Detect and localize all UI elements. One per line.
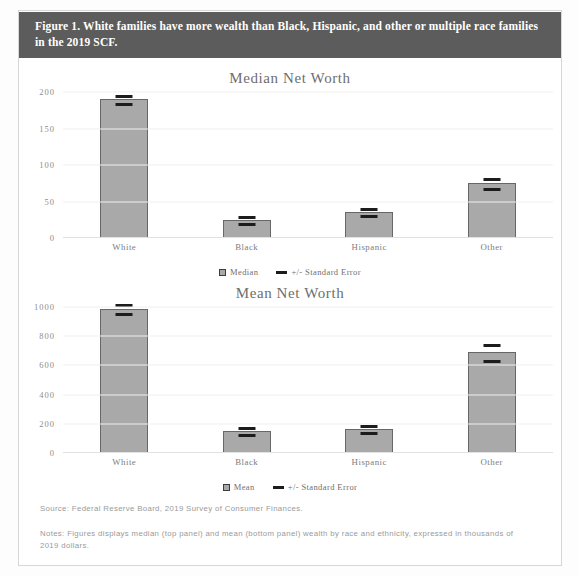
plot-area-mean: 02004006008001000 WhiteBlackHispanicOthe… (19, 307, 561, 453)
plot-mean (63, 307, 553, 453)
legend-item[interactable]: +/- Standard Error (276, 267, 361, 277)
gridline (63, 336, 553, 337)
bar-slot (308, 307, 431, 453)
chart-panel-median: Median Net Worth 050100150200 WhiteBlack… (19, 62, 561, 277)
bar-swatch-icon (219, 269, 226, 276)
chart-title-median: Median Net Worth (19, 68, 561, 88)
gridline (63, 307, 553, 308)
notes-text: Notes: Figures displays median (top pane… (40, 528, 520, 551)
y-axis-median: 050100150200 (19, 92, 61, 238)
y-axis-mean: 02004006008001000 (19, 307, 61, 453)
y-tick-label: 400 (39, 390, 55, 400)
x-axis-label: White (63, 242, 186, 258)
error-bar-lower-icon (116, 313, 133, 316)
error-bar-upper-icon (483, 178, 500, 181)
error-bar-upper-icon (361, 425, 378, 428)
legend-label: +/- Standard Error (291, 267, 361, 277)
chart-title-mean: Mean Net Worth (19, 283, 561, 303)
bar-slot (63, 307, 186, 453)
x-axis-label: Other (431, 242, 554, 258)
error-bar-icon (276, 271, 287, 274)
bar-black[interactable] (223, 431, 271, 453)
error-bar-lower-icon (238, 223, 255, 226)
source-text: Source: Federal Reserve Board, 2019 Surv… (40, 503, 520, 515)
y-tick-label: 200 (39, 87, 55, 97)
x-axis-label: White (63, 457, 186, 473)
bar-slot (431, 307, 554, 453)
bar-other[interactable] (468, 352, 516, 453)
error-bar-upper-icon (116, 95, 133, 98)
bar-black[interactable] (223, 220, 271, 238)
gridline (63, 165, 553, 166)
gridline (63, 201, 553, 202)
error-bar-lower-icon (483, 188, 500, 191)
bar-swatch-icon (223, 484, 230, 491)
x-axis-label: Hispanic (308, 242, 431, 258)
axis-baseline-median (63, 237, 553, 238)
y-tick-label: 0 (50, 448, 55, 458)
bar-white[interactable] (100, 309, 148, 453)
bar-other[interactable] (468, 183, 516, 238)
error-bar-icon (273, 486, 284, 489)
legend-label: Median (230, 267, 258, 277)
y-tick-label: 1000 (34, 302, 55, 312)
x-axis-label: Black (186, 457, 309, 473)
legend-item[interactable]: Mean (223, 482, 255, 492)
chart-panel-mean: Mean Net Worth 02004006008001000 WhiteBl… (19, 277, 561, 492)
error-bar-upper-icon (238, 427, 255, 430)
gridline (63, 365, 553, 366)
x-axis-label: Other (431, 457, 554, 473)
bar-white[interactable] (100, 99, 148, 238)
axis-baseline-mean (63, 452, 553, 453)
figure-notes: Notes: Figures displays median (top pane… (40, 528, 520, 551)
y-tick-label: 100 (39, 160, 55, 170)
bar-group-mean (63, 307, 553, 453)
figure-page: Figure 1. White families have more wealt… (0, 0, 578, 576)
legend-mean: Mean+/- Standard Error (19, 479, 561, 495)
bar-hispanic[interactable] (345, 212, 393, 238)
error-bar-upper-icon (483, 344, 500, 347)
legend-label: Mean (234, 482, 255, 492)
error-bar-upper-icon (238, 216, 255, 219)
y-tick-label: 600 (39, 360, 55, 370)
error-bar-upper-icon (361, 208, 378, 211)
bar-slot (186, 307, 309, 453)
error-bar-lower-icon (483, 360, 500, 363)
figure-header-band: Figure 1. White families have more wealt… (19, 12, 561, 58)
error-bar-lower-icon (116, 103, 133, 106)
y-tick-label: 0 (50, 233, 55, 243)
plot-median (63, 92, 553, 238)
plot-area-median: 050100150200 WhiteBlackHispanicOther Med… (19, 92, 561, 238)
y-tick-label: 150 (39, 124, 55, 134)
gridline (63, 423, 553, 424)
gridline (63, 92, 553, 93)
source-note: Source: Federal Reserve Board, 2019 Surv… (40, 503, 520, 515)
y-tick-label: 50 (45, 197, 56, 207)
x-axis-median: WhiteBlackHispanicOther (63, 242, 553, 258)
gridline (63, 394, 553, 395)
error-bar-lower-icon (361, 432, 378, 435)
y-tick-label: 200 (39, 419, 55, 429)
x-axis-mean: WhiteBlackHispanicOther (63, 457, 553, 473)
gridline (63, 128, 553, 129)
bar-hispanic[interactable] (345, 429, 393, 453)
x-axis-label: Hispanic (308, 457, 431, 473)
figure-title: Figure 1. White families have more wealt… (35, 19, 547, 50)
y-tick-label: 800 (39, 331, 55, 341)
legend-item[interactable]: +/- Standard Error (273, 482, 358, 492)
legend-label: +/- Standard Error (288, 482, 358, 492)
error-bar-lower-icon (238, 434, 255, 437)
error-bar-lower-icon (361, 215, 378, 218)
legend-item[interactable]: Median (219, 267, 258, 277)
x-axis-label: Black (186, 242, 309, 258)
